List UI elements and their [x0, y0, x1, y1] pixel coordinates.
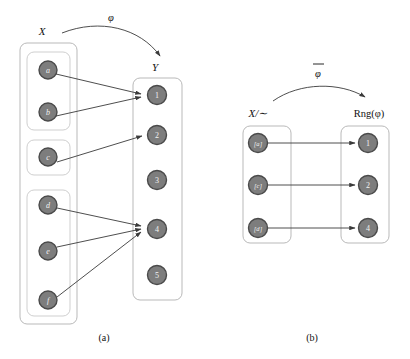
node-class-c: [c] [249, 176, 268, 195]
node-c: c [39, 148, 57, 166]
phi-label-a: φ [108, 12, 114, 23]
node-rng-2: 2 [359, 176, 378, 195]
node-rng-2-label: 2 [366, 181, 370, 190]
panel-b: φ X/∼ Rng(φ) [a] [c] [d] [243, 64, 389, 344]
phi-bar-label-b: φ [315, 68, 321, 79]
node-class-c-label: [c] [254, 182, 262, 190]
node-e-label: e [46, 247, 50, 256]
set-label-x: X [38, 25, 47, 37]
node-y3-label: 3 [155, 176, 159, 185]
node-a-label: a [46, 66, 50, 75]
node-y2: 2 [148, 126, 167, 145]
node-class-d-label: [d] [254, 225, 263, 233]
node-y5: 5 [148, 266, 167, 285]
caption-panel-a: (a) [98, 332, 109, 344]
node-e: e [39, 242, 57, 260]
set-label-y: Y [152, 61, 160, 73]
node-c-label: c [46, 153, 50, 162]
caption-panel-b: (b) [306, 332, 318, 344]
figure-root: φ X Y a [0, 0, 410, 359]
node-y4: 4 [148, 220, 167, 239]
node-y4-label: 4 [155, 225, 159, 234]
node-rng-4-label: 4 [366, 224, 370, 233]
node-class-d: [d] [249, 219, 268, 238]
phi-bar-map-arrow-b [273, 86, 365, 101]
node-rng-1-label: 1 [366, 139, 370, 148]
node-f: f [39, 291, 57, 309]
set-label-range: Rng(φ) [354, 108, 385, 120]
node-y3: 3 [148, 171, 167, 190]
set-label-quotient: X/∼ [248, 107, 269, 119]
node-y1-label: 1 [155, 91, 159, 100]
node-y1: 1 [148, 86, 167, 105]
node-y2-label: 2 [155, 131, 159, 140]
node-d: d [39, 196, 57, 214]
node-class-a-label: [a] [254, 140, 263, 148]
node-b-label: b [46, 108, 50, 117]
panel-a: φ X Y a [20, 12, 182, 344]
node-rng-1: 1 [359, 134, 378, 153]
node-rng-4: 4 [359, 219, 378, 238]
node-class-a: [a] [249, 134, 268, 153]
node-y5-label: 5 [155, 271, 159, 280]
figure-canvas: φ X Y a [0, 0, 410, 359]
node-a: a [39, 61, 57, 79]
node-b: b [39, 103, 57, 121]
